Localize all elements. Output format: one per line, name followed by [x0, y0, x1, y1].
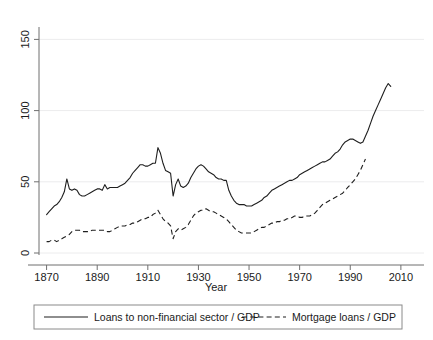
x-axis-title: Year [205, 281, 228, 293]
axis-lines [28, 27, 424, 265]
data-series [47, 84, 391, 242]
y-tick-label-0: 0 [19, 250, 31, 256]
x-tick-label-1890: 1890 [85, 271, 109, 283]
x-tick-label-1870: 1870 [34, 271, 58, 283]
y-axis-ticks: 050100150 [19, 30, 39, 256]
y-tick-label-150: 150 [19, 30, 31, 48]
chart-container: 050100150 187018901910193019501970199020… [0, 0, 433, 340]
y-tick-label-50: 50 [19, 176, 31, 188]
line-chart: 050100150 187018901910193019501970199020… [0, 0, 433, 340]
x-tick-label-1950: 1950 [237, 271, 261, 283]
x-tick-label-1910: 1910 [136, 271, 160, 283]
series-line-1 [47, 84, 391, 215]
chart-legend: Loans to non-financial sector / GDPMortg… [34, 305, 402, 329]
x-tick-label-2010: 2010 [389, 271, 413, 283]
x-tick-label-1990: 1990 [338, 271, 362, 283]
series-line-2 [47, 159, 366, 242]
x-tick-label-1970: 1970 [287, 271, 311, 283]
legend-label-1: Loans to non-financial sector / GDP [94, 311, 260, 323]
grid-lines [39, 39, 424, 253]
y-tick-label-100: 100 [19, 101, 31, 119]
legend-label-2: Mortgage loans / GDP [292, 311, 396, 323]
